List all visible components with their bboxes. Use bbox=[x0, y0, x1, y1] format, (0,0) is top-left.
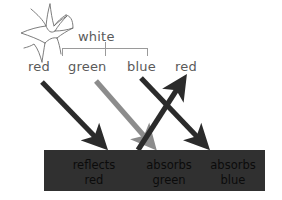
surface-cell-1-line2: red bbox=[58, 173, 130, 188]
surface-cell-2-line2: green bbox=[133, 173, 205, 188]
surface-cell-absorbs-green: absorbs green bbox=[133, 158, 205, 188]
surface-cell-reflects-red: reflects red bbox=[58, 158, 130, 188]
blue-component-label: blue bbox=[127, 60, 156, 73]
white-split-bracket bbox=[62, 42, 148, 56]
diagram-canvas: white red green blue red reflects red ab… bbox=[0, 0, 282, 200]
green-component-label: green bbox=[68, 60, 107, 73]
sparkle-burst-icon bbox=[21, 4, 73, 62]
surface-cell-2-line1: absorbs bbox=[146, 158, 191, 172]
surface-cell-3-line1: absorbs bbox=[210, 158, 255, 172]
red-component-label: red bbox=[28, 60, 50, 73]
surface-cell-3-line2: blue bbox=[200, 173, 266, 188]
incident-green-arrow bbox=[96, 81, 152, 145]
surface-cell-1-line1: reflects bbox=[73, 158, 116, 172]
white-label: white bbox=[78, 30, 115, 43]
incident-red-arrow bbox=[42, 82, 103, 145]
surface-cell-absorbs-blue: absorbs blue bbox=[200, 158, 266, 188]
reflected-red-label: red bbox=[175, 60, 197, 73]
